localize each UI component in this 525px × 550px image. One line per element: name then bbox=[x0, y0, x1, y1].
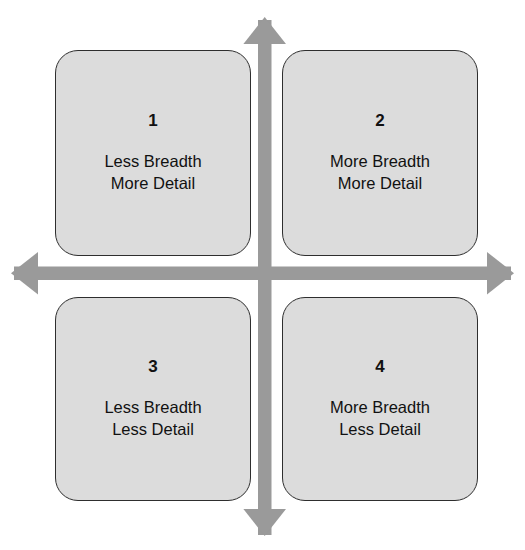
quadrant-2-number: 2 bbox=[375, 112, 385, 129]
quadrant-2-label: More Breadth More Detail bbox=[330, 151, 430, 195]
quadrant-1-label: Less Breadth More Detail bbox=[104, 151, 201, 195]
quadrant-box-1[interactable]: 1 Less Breadth More Detail bbox=[55, 50, 251, 256]
quadrant-3-label: Less Breadth Less Detail bbox=[104, 397, 201, 441]
quadrant-3-line-1: Less Breadth bbox=[104, 397, 201, 419]
quadrant-2-line-2: More Detail bbox=[330, 173, 430, 195]
quadrant-4-line-2: Less Detail bbox=[330, 419, 430, 441]
quadrant-box-4[interactable]: 4 More Breadth Less Detail bbox=[282, 297, 478, 501]
quadrant-3-line-2: Less Detail bbox=[104, 419, 201, 441]
quadrant-3-number: 3 bbox=[148, 358, 158, 375]
quadrant-box-2[interactable]: 2 More Breadth More Detail bbox=[282, 50, 478, 256]
quadrant-4-line-1: More Breadth bbox=[330, 397, 430, 419]
quadrant-2-line-1: More Breadth bbox=[330, 151, 430, 173]
quadrant-4-number: 4 bbox=[375, 358, 385, 375]
quadrant-box-3[interactable]: 3 Less Breadth Less Detail bbox=[55, 297, 251, 501]
quadrant-matrix-diagram: 1 Less Breadth More Detail 2 More Breadt… bbox=[0, 0, 525, 550]
quadrant-1-line-1: Less Breadth bbox=[104, 151, 201, 173]
quadrant-1-line-2: More Detail bbox=[104, 173, 201, 195]
quadrant-4-label: More Breadth Less Detail bbox=[330, 397, 430, 441]
quadrant-1-number: 1 bbox=[148, 112, 158, 129]
